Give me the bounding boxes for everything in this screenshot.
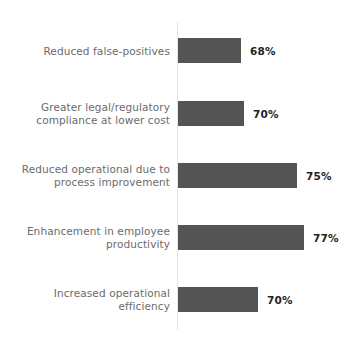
bar-chart: Reduced false-positives68%Greater legal/… — [0, 0, 358, 348]
bar — [178, 225, 304, 250]
bar-category-label: Increased operational efficiency — [10, 287, 170, 313]
bar — [178, 101, 244, 126]
bar-value-label: 75% — [306, 170, 332, 182]
bar — [178, 38, 241, 63]
bar-category-label: Enhancement in employee productivity — [10, 225, 170, 251]
bar-row: Enhancement in employee productivity77% — [0, 225, 358, 250]
bar-row: Increased operational efficiency70% — [0, 287, 358, 312]
bar-value-label: 70% — [267, 294, 293, 306]
bar-row: Greater legal/regulatory compliance at l… — [0, 101, 358, 126]
bar-category-label: Reduced false-positives — [10, 44, 170, 57]
bar-row: Reduced false-positives68% — [0, 38, 358, 63]
bar-category-label: Greater legal/regulatory compliance at l… — [10, 101, 170, 127]
bar — [178, 287, 258, 312]
bar-value-label: 68% — [250, 45, 276, 57]
bar-row: Reduced operational due to process impro… — [0, 163, 358, 188]
bar-value-label: 77% — [313, 232, 339, 244]
bar — [178, 163, 297, 188]
bar-value-label: 70% — [253, 108, 279, 120]
bar-category-label: Reduced operational due to process impro… — [10, 163, 170, 189]
